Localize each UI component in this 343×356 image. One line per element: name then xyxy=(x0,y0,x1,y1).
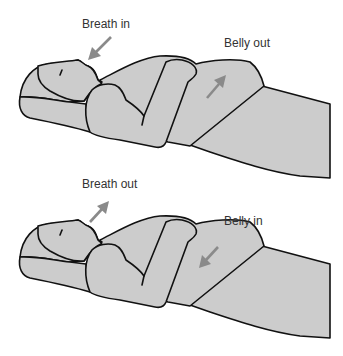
breath-out-arrow-icon xyxy=(90,201,109,222)
diagram-artwork xyxy=(0,0,343,356)
breath-in-label: Breath in xyxy=(82,17,130,31)
breath-in-arrow-icon xyxy=(88,37,111,60)
belly-out-label: Belly out xyxy=(224,36,270,50)
figure-inhale xyxy=(19,37,330,178)
breathing-diagram: Breath in Belly out Breath out Belly in xyxy=(0,0,343,356)
belly-in-label: Belly in xyxy=(224,214,263,228)
figure-exhale xyxy=(19,201,330,338)
breath-out-label: Breath out xyxy=(82,177,137,191)
